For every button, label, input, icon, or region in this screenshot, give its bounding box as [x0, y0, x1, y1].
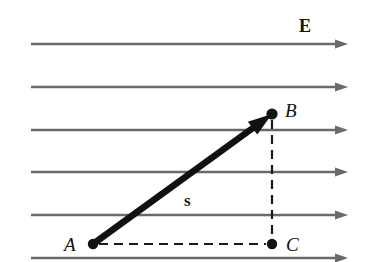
field-line-arrowhead-3 [335, 125, 348, 134]
vector-label-s: s [184, 192, 191, 209]
point-dot-a [88, 239, 98, 249]
electric-field-diagram: E s A B C [0, 0, 370, 262]
field-line-arrowhead-2 [335, 82, 348, 91]
point-label-c: C [286, 235, 299, 254]
diagram-canvas [0, 0, 370, 262]
field-line-arrowhead-6 [335, 253, 348, 262]
field-line-arrowhead-5 [335, 210, 348, 219]
field-lines-group [31, 39, 348, 262]
point-dot-b [266, 108, 277, 119]
vector-shaft [93, 122, 261, 244]
point-dot-c [267, 239, 277, 249]
field-line-arrowhead-4 [335, 167, 348, 176]
displacement-vector-group [93, 114, 272, 244]
point-label-b: B [285, 101, 297, 120]
field-line-arrowhead-1 [335, 39, 348, 48]
field-label-E: E [299, 17, 311, 35]
dashed-construction-lines-group [99, 120, 272, 244]
point-label-a: A [64, 235, 76, 254]
